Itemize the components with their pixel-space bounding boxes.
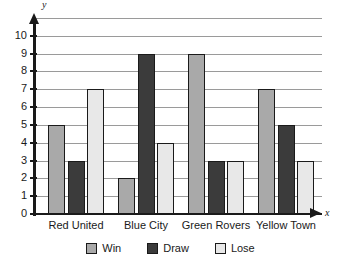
y-tick-mark bbox=[30, 35, 37, 37]
y-tick-label: 10 bbox=[3, 30, 27, 41]
legend-label-lose: Lose bbox=[231, 243, 255, 254]
legend-label-win: Win bbox=[102, 243, 121, 254]
legend-swatch-win-icon bbox=[86, 243, 97, 254]
y-tick-mark bbox=[30, 70, 37, 72]
y-tick-mark bbox=[30, 195, 37, 197]
bar-win-yellow-town bbox=[258, 89, 275, 214]
y-tick-label: 2 bbox=[3, 172, 27, 183]
y-tick-label: 4 bbox=[3, 137, 27, 148]
legend-item-draw: Draw bbox=[147, 243, 189, 254]
bar-lose-red-united bbox=[87, 89, 104, 214]
y-tick-mark bbox=[30, 88, 37, 90]
x-axis-line bbox=[34, 213, 313, 215]
y-tick-mark bbox=[30, 124, 37, 126]
plot-area bbox=[34, 18, 322, 214]
y-tick-mark bbox=[30, 53, 37, 55]
y-tick-label: 1 bbox=[3, 190, 27, 201]
y-tick-label: 6 bbox=[3, 101, 27, 112]
bar-group bbox=[188, 18, 250, 214]
y-tick-label: 3 bbox=[3, 155, 27, 166]
y-tick-label: 5 bbox=[3, 119, 27, 130]
bar-draw-blue-city bbox=[138, 54, 155, 214]
bar-lose-blue-city bbox=[157, 143, 174, 214]
y-tick-mark bbox=[30, 142, 37, 144]
legend-swatch-lose-icon bbox=[215, 243, 226, 254]
y-axis-line bbox=[33, 22, 36, 216]
bar-chart: y x 012345678910 Red UnitedBlue CityGree… bbox=[0, 0, 341, 265]
bar-win-blue-city bbox=[118, 178, 135, 214]
y-tick-mark bbox=[30, 160, 37, 162]
bar-win-red-united bbox=[48, 125, 65, 214]
x-axis-label: x bbox=[325, 207, 329, 218]
y-tick-label: 8 bbox=[3, 65, 27, 76]
legend-label-draw: Draw bbox=[163, 243, 189, 254]
y-tick-label: 9 bbox=[3, 48, 27, 59]
y-tick-mark bbox=[30, 213, 37, 215]
category-label-yellow-town: Yellow Town bbox=[241, 219, 331, 231]
bar-win-green-rovers bbox=[188, 54, 205, 214]
y-axis-label: y bbox=[42, 0, 46, 10]
bar-draw-green-rovers bbox=[208, 161, 225, 214]
y-axis-arrow-icon bbox=[29, 13, 39, 24]
legend-item-win: Win bbox=[86, 243, 121, 254]
x-axis-arrow-icon bbox=[310, 208, 321, 218]
bar-lose-yellow-town bbox=[297, 161, 314, 214]
y-tick-label: 0 bbox=[3, 208, 27, 219]
bar-group bbox=[118, 18, 180, 214]
bar-group bbox=[48, 18, 110, 214]
bar-draw-red-united bbox=[68, 161, 85, 214]
bar-group bbox=[258, 18, 320, 214]
legend-item-lose: Lose bbox=[215, 243, 255, 254]
y-tick-label: 7 bbox=[3, 83, 27, 94]
y-tick-mark bbox=[30, 106, 37, 108]
bar-draw-yellow-town bbox=[278, 125, 295, 214]
legend-swatch-draw-icon bbox=[147, 243, 158, 254]
y-tick-mark bbox=[30, 177, 37, 179]
bars-layer bbox=[34, 18, 322, 214]
chart-legend: WinDrawLose bbox=[0, 243, 341, 254]
bar-lose-green-rovers bbox=[227, 161, 244, 214]
